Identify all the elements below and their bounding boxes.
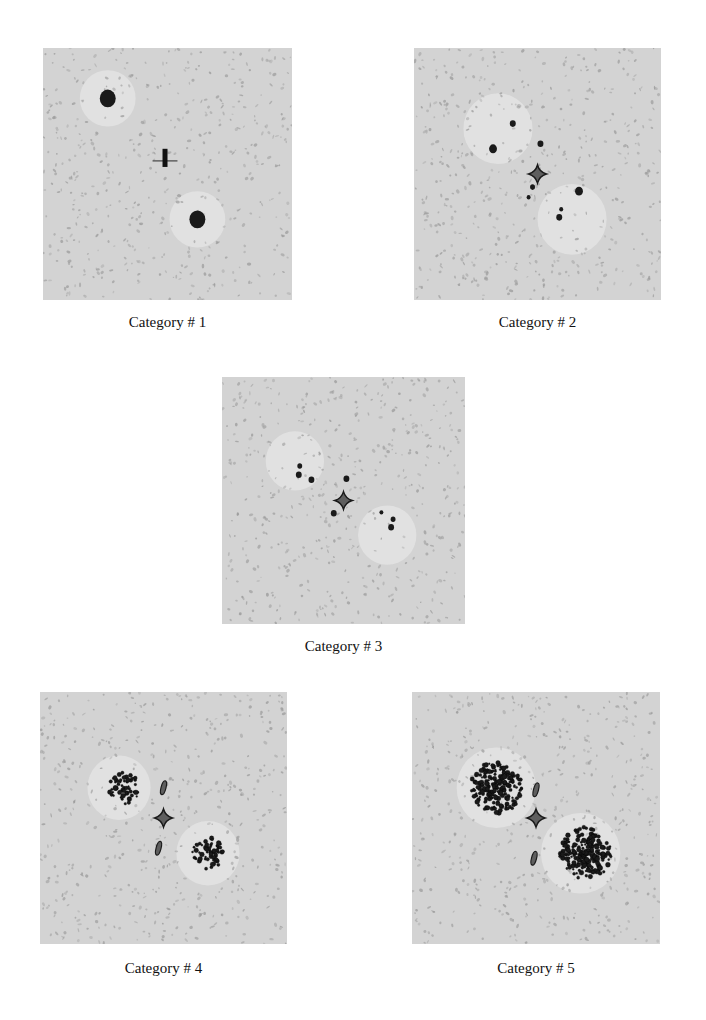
particle	[189, 210, 205, 228]
particle	[530, 184, 535, 190]
background	[43, 48, 292, 300]
particle	[538, 140, 544, 147]
particle	[309, 476, 315, 483]
micrograph-category-4	[40, 692, 287, 944]
particle	[388, 524, 394, 531]
caption-category-4: Category # 4	[40, 960, 287, 977]
micrograph-category-5	[412, 692, 660, 944]
panel-category-3	[222, 377, 465, 624]
halo	[266, 431, 324, 490]
particle	[100, 90, 116, 108]
caption-category-2: Category # 2	[414, 314, 661, 331]
halo	[463, 93, 532, 164]
micrograph-category-1	[43, 48, 292, 300]
panel-category-2	[414, 48, 661, 300]
caption-category-5: Category # 5	[412, 960, 660, 977]
halo	[87, 756, 150, 821]
particle	[575, 187, 583, 196]
particle	[297, 463, 302, 468]
particle	[559, 207, 563, 211]
caption-category-1: Category # 1	[43, 314, 292, 331]
cross-marker-vertical	[163, 149, 168, 167]
particle	[296, 472, 302, 479]
panel-category-4	[40, 692, 287, 944]
particle	[489, 144, 497, 153]
halo	[358, 505, 416, 564]
particle	[344, 476, 350, 483]
micrograph-category-2	[414, 48, 661, 300]
particle	[379, 510, 383, 514]
particle	[331, 510, 337, 517]
micrograph-category-3	[222, 377, 465, 624]
caption-category-3: Category # 3	[222, 638, 465, 655]
halo	[538, 184, 607, 255]
particle	[510, 120, 516, 127]
panel-category-1	[43, 48, 292, 300]
particle	[527, 195, 531, 199]
particle	[391, 517, 396, 522]
halo	[176, 821, 239, 886]
panel-category-5	[412, 692, 660, 944]
particle	[556, 214, 562, 221]
